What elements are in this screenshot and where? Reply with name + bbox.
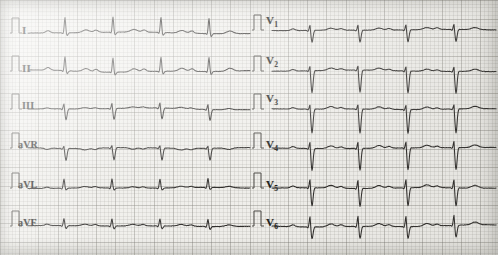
calibration-pulse-v1 <box>252 15 264 30</box>
calibration-pulse-i <box>10 18 22 33</box>
ecg-trace-v4 <box>272 141 496 170</box>
lead-label-subscript: 2 <box>274 60 278 69</box>
ecg-recording: IIIIIIaVRaVLaVFV1V2V3V4V5V6 <box>0 0 498 255</box>
lead-label-text: V <box>266 138 274 150</box>
lead-label-text: III <box>22 100 34 111</box>
ecg-trace-i <box>28 17 250 36</box>
calibration-pulse-v5 <box>252 173 264 188</box>
lead-label-v1: V1 <box>266 14 278 29</box>
calibration-pulse-v3 <box>252 94 264 109</box>
lead-label-text: I <box>22 24 26 36</box>
ecg-traces-layer <box>0 0 498 255</box>
lead-label-subscript: 6 <box>274 222 278 231</box>
lead-label-v6: V6 <box>266 216 278 231</box>
lead-label-i: I <box>22 24 26 36</box>
ecg-trace-avr <box>28 146 250 161</box>
lead-label-v5: V5 <box>266 178 278 193</box>
lead-label-subscript: 5 <box>274 184 278 193</box>
ecg-trace-avl <box>28 178 250 189</box>
lead-label-text: V <box>266 54 274 66</box>
lead-label-text: V <box>266 92 274 104</box>
lead-label-text: aVR <box>18 139 38 150</box>
lead-label-v4: V4 <box>266 138 278 153</box>
lead-label-avf: aVF <box>18 217 37 228</box>
lead-label-v2: V2 <box>266 54 278 69</box>
ecg-trace-avf <box>28 219 250 230</box>
calibration-pulse-iii <box>10 94 22 109</box>
calibration-pulse-v2 <box>252 56 264 71</box>
lead-label-subscript: 1 <box>274 20 278 29</box>
calibration-pulse-ii <box>10 56 22 71</box>
lead-label-avl: aVL <box>18 179 38 190</box>
calibration-pulse-v4 <box>252 133 264 148</box>
calibration-pulse-v6 <box>252 211 264 226</box>
lead-label-text: V <box>266 14 274 26</box>
ecg-trace-v1 <box>272 24 496 42</box>
lead-label-text: aVF <box>18 217 37 228</box>
lead-label-subscript: 4 <box>274 144 278 153</box>
ecg-trace-ii <box>28 57 250 75</box>
lead-label-v3: V3 <box>266 92 278 107</box>
lead-label-iii: III <box>22 100 34 111</box>
lead-label-text: V <box>266 178 274 190</box>
ecg-trace-v5 <box>272 180 496 207</box>
lead-label-text: V <box>266 216 274 228</box>
lead-label-text: aVL <box>18 179 38 190</box>
ecg-trace-iii <box>28 103 250 120</box>
lead-label-ii: II <box>22 62 31 74</box>
lead-label-avr: aVR <box>18 139 38 150</box>
ecg-trace-v2 <box>272 66 496 93</box>
ecg-trace-v3 <box>272 105 496 133</box>
ecg-trace-v6 <box>272 215 496 238</box>
ecg-trace-svg <box>0 0 498 255</box>
lead-label-subscript: 3 <box>274 98 278 107</box>
lead-label-text: II <box>22 62 31 74</box>
